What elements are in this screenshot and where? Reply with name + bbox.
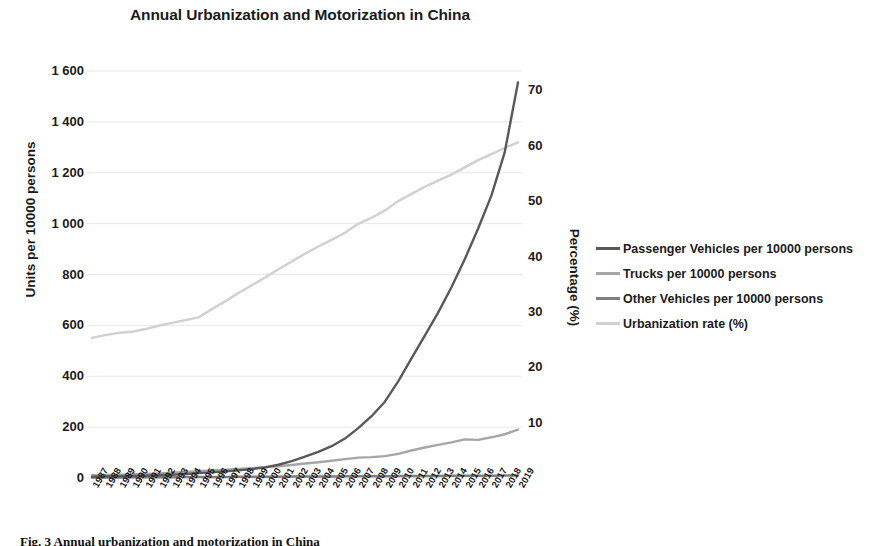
page-title: Annual Urbanization and Motorization in … <box>0 6 600 24</box>
right-axis-title: Percentage (%) <box>567 198 582 358</box>
right-tick-label: 40 <box>528 249 542 264</box>
chart-legend: Passenger Vehicles per 10000 personsTruc… <box>596 236 888 336</box>
legend-line-icon <box>596 297 620 300</box>
legend-line-icon <box>596 272 620 275</box>
right-tick-label: 20 <box>528 359 542 374</box>
left-tick-label: 200 <box>0 419 84 434</box>
legend-item-label: Trucks per 10000 persons <box>623 267 777 281</box>
series-line <box>92 82 518 476</box>
chart-figure: Annual Urbanization and Motorization in … <box>0 0 888 546</box>
figure-caption: Fig. 3 Annual urbanization and motorizat… <box>20 534 320 546</box>
left-tick-label: 400 <box>0 368 84 383</box>
left-tick-label: 1 000 <box>0 216 84 231</box>
legend-item[interactable]: Passenger Vehicles per 10000 persons <box>596 236 888 261</box>
legend-line-icon <box>596 247 620 250</box>
legend-item-label: Other Vehicles per 10000 persons <box>623 292 823 306</box>
legend-item-label: Passenger Vehicles per 10000 persons <box>623 242 853 256</box>
left-tick-label: 800 <box>0 267 84 282</box>
legend-item[interactable]: Other Vehicles per 10000 persons <box>596 286 888 311</box>
legend-item[interactable]: Urbanization rate (%) <box>596 311 888 336</box>
legend-line-icon <box>596 322 620 325</box>
series-line <box>92 142 518 337</box>
left-tick-label: 1 600 <box>0 63 84 78</box>
left-tick-label: 1 200 <box>0 165 84 180</box>
right-tick-label: 30 <box>528 304 542 319</box>
right-tick-label: 10 <box>528 415 542 430</box>
right-tick-label: 60 <box>528 138 542 153</box>
legend-item-label: Urbanization rate (%) <box>623 317 748 331</box>
legend-item[interactable]: Trucks per 10000 persons <box>596 261 888 286</box>
left-tick-label: 0 <box>0 470 84 485</box>
right-tick-label: 50 <box>528 193 542 208</box>
right-tick-label: 70 <box>528 82 542 97</box>
left-tick-label: 600 <box>0 317 84 332</box>
left-tick-label: 1 400 <box>0 114 84 129</box>
